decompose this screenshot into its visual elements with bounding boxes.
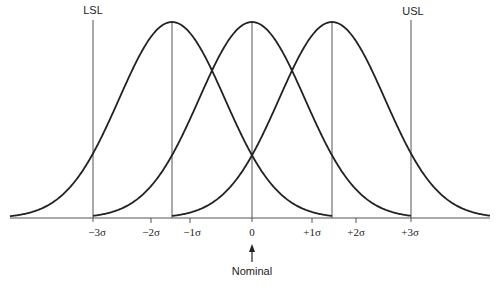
tick-label-minus1: −1σ <box>183 226 201 238</box>
tick-label-minus2: −2σ <box>142 226 160 238</box>
nominal-arrow-icon <box>249 244 255 252</box>
nominal-label: Nominal <box>232 265 272 277</box>
process-shift-diagram: LSL USL −3σ −2σ −1σ 0 +1σ +2σ +3σ Nomina… <box>0 0 498 293</box>
tick-label-minus3: −3σ <box>88 226 106 238</box>
tick-label-plus3: +3σ <box>401 226 419 238</box>
tick-label-plus2: +2σ <box>347 226 365 238</box>
tick-label-zero: 0 <box>249 226 255 238</box>
distribution-curve-left <box>10 22 332 216</box>
usl-label: USL <box>402 5 423 17</box>
distribution-curve-right <box>172 22 490 216</box>
tick-label-plus1: +1σ <box>303 226 321 238</box>
lsl-label: LSL <box>83 4 103 16</box>
